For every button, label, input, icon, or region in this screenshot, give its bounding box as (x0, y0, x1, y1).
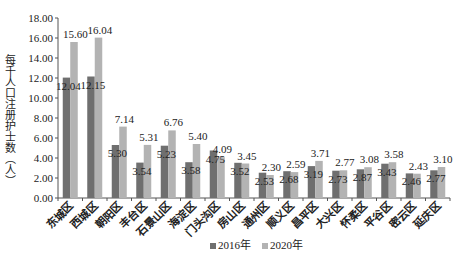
y-tick-label: 18.00 (28, 12, 53, 24)
value-label-2020: 5.31 (139, 131, 158, 143)
bar-2016 (63, 78, 71, 198)
value-label-2020: 5.40 (188, 130, 208, 142)
bar-2020 (119, 127, 127, 198)
value-label-2020: 2.30 (262, 161, 282, 173)
value-label-2020: 15.60 (63, 28, 88, 40)
value-label-2020: 3.08 (360, 153, 380, 165)
value-label-2016: 5.23 (157, 148, 177, 160)
legend-swatch (210, 243, 216, 249)
value-label-2020: 3.45 (237, 150, 257, 162)
value-label-2020: 7.14 (115, 113, 135, 125)
legend-swatch (262, 243, 268, 249)
y-tick-label: 10.00 (28, 92, 53, 104)
value-label-2016: 2.46 (402, 175, 422, 187)
y-tick-label: 0.00 (34, 192, 54, 204)
value-label-2016: 3.43 (377, 166, 397, 178)
value-label-2016: 12.15 (80, 79, 105, 91)
legend-label: 2016年 (218, 238, 251, 251)
y-tick-label: 6.00 (34, 132, 54, 144)
value-label-2016: 3.58 (181, 164, 201, 176)
bar-2016 (87, 77, 95, 199)
value-label-2020: 3.71 (311, 147, 330, 159)
y-tick-label: 12.00 (28, 72, 53, 84)
value-label-2020: 2.77 (335, 156, 355, 168)
y-tick-label: 4.00 (34, 152, 54, 164)
value-label-2016: 3.54 (132, 165, 152, 177)
value-label-2020: 3.10 (433, 153, 453, 165)
bar-2020 (95, 38, 103, 198)
bar-chart: 0.002.004.006.008.0010.0012.0014.0016.00… (0, 0, 462, 265)
value-label-2020: 2.43 (409, 160, 429, 172)
bar-2020 (168, 130, 176, 198)
y-tick-label: 8.00 (34, 112, 54, 124)
y-tick-label: 14.00 (28, 52, 53, 64)
value-label-2016: 2.53 (255, 175, 275, 187)
x-tick-label: 延庆区 (410, 198, 444, 232)
y-tick-label: 16.00 (28, 32, 53, 44)
bar-2020 (70, 42, 78, 198)
y-tick-label: 2.00 (34, 172, 54, 184)
value-label-2016: 2.77 (426, 172, 446, 184)
value-label-2020: 3.58 (384, 148, 404, 160)
value-label-2016: 12.04 (56, 80, 81, 92)
legend-label: 2020年 (270, 238, 303, 251)
value-label-2016: 2.87 (353, 171, 373, 183)
value-label-2016: 2.73 (328, 173, 348, 185)
value-label-2016: 2.68 (279, 173, 299, 185)
value-label-2016: 3.52 (230, 165, 249, 177)
value-label-2020: 6.76 (164, 116, 184, 128)
value-label-2016: 5.30 (108, 147, 128, 159)
value-label-2016: 3.19 (304, 168, 324, 180)
value-label-2020: 4.09 (213, 143, 233, 155)
value-label-2020: 16.04 (87, 24, 112, 36)
